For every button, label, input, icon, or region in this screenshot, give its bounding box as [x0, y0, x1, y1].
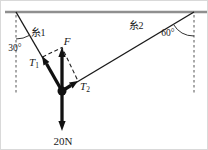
left-angle-label: 30° [8, 44, 21, 54]
right-angle-label: 60° [161, 29, 174, 39]
diagram-canvas [1, 1, 208, 150]
tension1-label: T1 [29, 57, 39, 70]
right-angle-arc [173, 24, 194, 36]
string1-label: 糸1 [31, 28, 46, 38]
weight-label: 20N [54, 136, 73, 147]
physics-force-diagram: 糸1 糸2 30° 60° F T1 T2 20N [0, 0, 208, 150]
mass-point [58, 87, 67, 96]
weight-arrow [58, 91, 65, 131]
resultant-force-label: F [64, 36, 71, 47]
left-angle-arc [16, 35, 30, 39]
string2-label: 糸2 [129, 21, 144, 31]
tension1-arrow [42, 56, 62, 91]
tension2-label: T2 [80, 81, 90, 94]
